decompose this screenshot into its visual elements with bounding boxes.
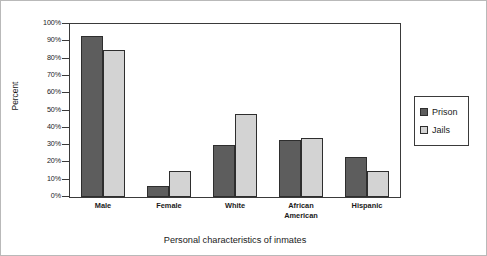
bar-prison-african-american (279, 140, 301, 197)
dark-gray-swatch-icon (420, 108, 428, 116)
bar-group (81, 24, 125, 197)
legend-item-label: Jails (432, 125, 450, 135)
y-axis-tick-label: 30% (47, 139, 61, 149)
bar-jails-white (235, 114, 257, 197)
y-axis-tick-label: 80% (47, 53, 61, 63)
bar-prison-white (213, 145, 235, 197)
bar-group (147, 24, 191, 197)
y-axis-tick-mark (62, 58, 69, 59)
bar-jails-female (169, 171, 191, 197)
y-axis-tick-mark (62, 179, 69, 180)
bar-jails-hispanic (367, 171, 389, 197)
y-axis-tick-label: 20% (47, 156, 61, 166)
bar-chart-figure: Percent 100%90%80%70%60%50%40%30%20%10%0… (0, 0, 487, 256)
light-gray-swatch-icon (420, 126, 428, 134)
y-axis-tick-mark (62, 196, 69, 197)
y-axis-tick-label: 40% (47, 122, 61, 132)
bar-prison-male (81, 36, 103, 197)
y-axis-tick-mark (62, 75, 69, 76)
y-axis-tick-mark (62, 92, 69, 93)
y-axis-tick-label: 0% (51, 191, 61, 201)
bar-prison-hispanic (345, 157, 367, 197)
y-axis-tick-mark (62, 144, 69, 145)
legend-item-prison: Prison (420, 103, 463, 121)
y-axis-tick-label: 50% (47, 105, 61, 115)
bar-group (279, 24, 323, 197)
y-axis-tick-mark (62, 110, 69, 111)
legend-item-label: Prison (432, 107, 458, 117)
y-axis-tick-label: 70% (47, 70, 61, 80)
bar-group (213, 24, 257, 197)
y-axis-tick-label: 90% (47, 35, 61, 45)
bar-jails-african-american (301, 138, 323, 197)
legend-item-jails: Jails (420, 121, 463, 139)
bars-layer (70, 24, 400, 197)
y-axis-tick-labels: 100%90%80%70%60%50%40%30%20%10%0% (1, 23, 61, 198)
bar-jails-male (103, 50, 125, 197)
y-axis-tick-mark (62, 161, 69, 162)
x-axis-tick-label: Hispanic (327, 201, 407, 211)
y-axis-tick-mark (62, 23, 69, 24)
x-axis-title: Personal characteristics of inmates (69, 235, 401, 245)
bar-prison-female (147, 186, 169, 197)
y-axis-tick-mark (62, 127, 69, 128)
y-axis-tick-mark (62, 40, 69, 41)
bar-group (345, 24, 389, 197)
y-axis-tick-marks (62, 23, 69, 198)
y-axis-tick-label: 100% (43, 18, 61, 28)
y-axis-tick-label: 60% (47, 87, 61, 97)
chart-legend: Prison Jails (414, 96, 469, 146)
x-axis-tick-labels: MaleFemaleWhiteAfrican AmericanHispanic (70, 201, 400, 231)
y-axis-tick-label: 10% (47, 174, 61, 184)
